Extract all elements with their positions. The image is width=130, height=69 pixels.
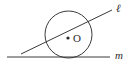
geometry-figure: O ℓ m: [0, 0, 130, 69]
center-point-label: O: [73, 32, 81, 44]
secant-line-label: ℓ: [116, 2, 121, 14]
circle-shape: [45, 11, 92, 58]
secant-line-l: [21, 10, 112, 54]
tangent-line-label: m: [115, 49, 123, 61]
center-point-dot: [66, 36, 69, 39]
figure-canvas: O ℓ m: [0, 0, 130, 69]
